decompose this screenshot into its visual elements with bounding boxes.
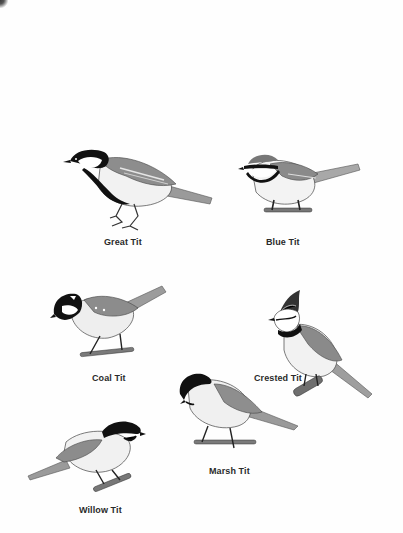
book-page: Great Tit Blue Tit [0,0,403,533]
coal-tit-illustration [50,284,170,364]
marsh-tit-illustration [178,370,303,458]
page-corner-shadow [0,0,8,8]
marsh-tit-label: Marsh Tit [209,466,250,476]
coal-tit-label: Coal Tit [92,373,126,383]
willow-tit-label: Willow Tit [79,505,122,515]
blue-tit-label: Blue Tit [266,237,300,247]
great-tit-illustration [60,146,220,238]
blue-tit-illustration [238,152,362,222]
willow-tit-illustration [26,418,146,494]
great-tit-label: Great Tit [104,237,142,247]
